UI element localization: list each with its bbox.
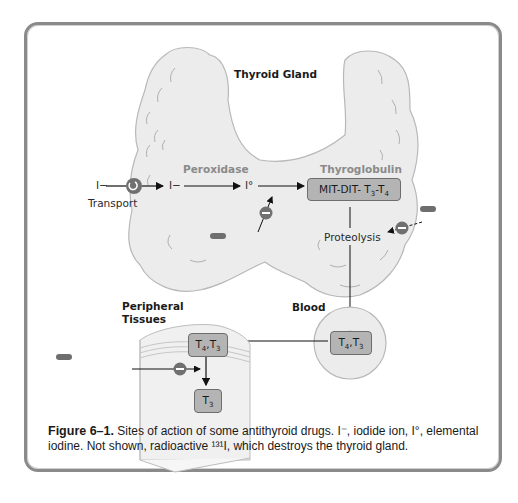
peroxidase-label: Peroxidase <box>183 163 249 175</box>
figure-caption: Figure 6–1. Sites of action of some anti… <box>48 424 488 454</box>
drug-box-iodides <box>420 206 436 212</box>
mit-dit-label: MIT-DIT- T3-T4 <box>319 183 389 195</box>
tissue-hormones-label: T4,T3 <box>195 338 220 350</box>
blood-hormones-label: T4,T3 <box>338 336 363 348</box>
iodide-input-label: I− <box>96 179 108 191</box>
elemental-iodine-label: I° <box>245 179 253 191</box>
peripheral-tissues-label: Peripheral Tissues <box>122 300 184 326</box>
transport-label: Transport <box>88 197 137 209</box>
thyroglobulin-label: Thyroglobulin <box>320 163 402 175</box>
blood-hormones-box: T4,T3 <box>330 331 372 355</box>
tissue-t3-box: T3 <box>194 389 222 413</box>
tissue-hormones-box: T4,T3 <box>188 333 228 357</box>
tissue-t3-label: T3 <box>203 394 214 406</box>
blood-label: Blood <box>292 301 326 313</box>
iodide-cell-label: I− <box>169 179 181 191</box>
mit-dit-box: MIT-DIT- T3-T4 <box>307 178 401 201</box>
caption-label: Figure 6–1. <box>48 424 114 438</box>
proteolysis-label: Proteolysis <box>324 231 381 243</box>
thyroid-gland-title: Thyroid Gland <box>234 68 317 80</box>
drug-box-ipodate <box>56 354 72 360</box>
drug-box-iodides-thioamides <box>210 233 226 239</box>
